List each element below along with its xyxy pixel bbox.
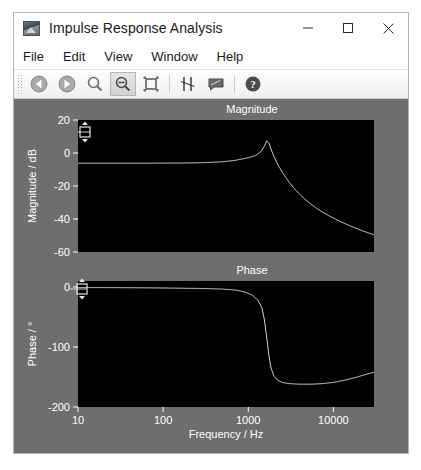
cursors-button[interactable] — [175, 72, 201, 96]
maximize-icon — [342, 22, 354, 34]
close-button[interactable] — [368, 13, 408, 43]
back-button[interactable] — [26, 72, 52, 96]
magnitude-y-axis-label: Magnitude / dB — [26, 149, 38, 223]
chart-image-icon — [23, 21, 40, 36]
application-window: Impulse Response Analysis — [13, 12, 409, 454]
note-icon — [207, 75, 225, 93]
forward-button[interactable] — [54, 72, 80, 96]
phase-plot-background — [78, 281, 374, 407]
svg-text:-100: -100 — [48, 341, 70, 353]
phase-title: Phase — [236, 264, 267, 276]
window-controls — [288, 13, 408, 43]
svg-text:-40: -40 — [54, 213, 70, 225]
help-button[interactable]: ? — [240, 72, 266, 96]
forward-arrow-icon — [58, 75, 76, 93]
maximize-button[interactable] — [328, 13, 368, 43]
svg-text:-60: -60 — [54, 246, 70, 258]
menu-item-edit[interactable]: Edit — [63, 47, 95, 66]
cursor-lines-icon — [179, 75, 197, 93]
svg-text:10: 10 — [72, 414, 84, 426]
minimize-icon — [302, 22, 314, 34]
svg-text:?: ? — [250, 78, 256, 90]
menu-item-help[interactable]: Help — [217, 47, 254, 66]
fit-view-button[interactable] — [138, 72, 164, 96]
svg-text:0: 0 — [64, 281, 70, 293]
screenshot-root: Impulse Response Analysis — [0, 0, 421, 470]
svg-text:-200: -200 — [48, 401, 70, 413]
zoom-horizontal-button[interactable] — [110, 72, 136, 96]
svg-text:0: 0 — [64, 147, 70, 159]
minimize-button[interactable] — [288, 13, 328, 43]
help-question-icon: ? — [244, 75, 262, 93]
magnitude-subplot[interactable]: Magnitude 200-20-40-60 Magnitude / dB — [26, 103, 374, 258]
svg-text:20: 20 — [58, 114, 70, 126]
plot-panel: Magnitude 200-20-40-60 Magnitude / dB — [14, 99, 408, 453]
toolbar-separator — [169, 75, 170, 93]
menu-item-window[interactable]: Window — [151, 47, 207, 66]
svg-text:1000: 1000 — [236, 414, 260, 426]
title-bar: Impulse Response Analysis — [14, 13, 408, 43]
menu-item-file[interactable]: File — [23, 47, 54, 66]
bode-plot-svg[interactable]: Magnitude 200-20-40-60 Magnitude / dB — [14, 99, 408, 453]
phase-y-axis-label: Phase / ° — [26, 322, 38, 367]
svg-text:-20: -20 — [54, 180, 70, 192]
toolbar-grip[interactable] — [17, 74, 22, 94]
menu-bar: File Edit View Window Help — [14, 43, 408, 69]
back-arrow-icon — [30, 75, 48, 93]
annotation-button[interactable] — [203, 72, 229, 96]
close-icon — [382, 22, 395, 35]
svg-text:100: 100 — [154, 414, 172, 426]
svg-text:10000: 10000 — [318, 414, 349, 426]
toolbar-separator-2 — [234, 75, 235, 93]
frequency-axis-label: Frequency / Hz — [189, 428, 264, 440]
zoom-button[interactable] — [82, 72, 108, 96]
magnitude-title: Magnitude — [226, 103, 277, 115]
fit-rectangle-icon — [142, 75, 160, 93]
menu-item-view[interactable]: View — [104, 47, 142, 66]
magnifier-horizontal-icon — [114, 75, 132, 93]
magnitude-plot-background — [78, 120, 374, 252]
magnifier-icon — [86, 75, 104, 93]
window-title: Impulse Response Analysis — [49, 20, 223, 36]
toolbar: ? — [14, 69, 408, 99]
